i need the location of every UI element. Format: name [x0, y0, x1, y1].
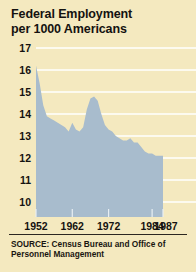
y-axis-tick-label: 16 [19, 65, 31, 75]
source-divider [9, 234, 187, 235]
y-axis-tick-label: 11 [20, 175, 31, 185]
chart-title-line-2: per 1000 Americans [11, 22, 191, 37]
x-axis-tick-label: 1952 [24, 220, 47, 232]
x-axis-tick-label: 1972 [97, 220, 120, 232]
y-axis-tick-label: 12 [19, 153, 31, 163]
chart-title: Federal Employment per 1000 Americans [11, 7, 191, 36]
source-line-1: SOURCE: Census Bureau and Office of [11, 239, 189, 249]
y-axis-tick-label: 17 [19, 43, 31, 53]
x-axis-tick-label: 1987 [154, 220, 177, 232]
y-axis-tick-label: 13 [19, 131, 31, 141]
y-axis-tick-label: 10 [19, 197, 31, 207]
x-axis-tick-label: 1962 [61, 220, 84, 232]
chart-figure: Federal Employment per 1000 Americans 17… [0, 0, 196, 272]
y-axis-labels: 1716151413121110 [0, 40, 36, 222]
source-note: SOURCE: Census Bureau and Office of Pers… [11, 239, 189, 259]
y-axis-tick-label: 15 [19, 87, 31, 97]
chart-title-line-1: Federal Employment [11, 7, 191, 22]
source-line-2: Personnel Management [11, 249, 189, 259]
area-series-path [36, 66, 163, 217]
y-axis-tick-label: 14 [19, 109, 31, 119]
